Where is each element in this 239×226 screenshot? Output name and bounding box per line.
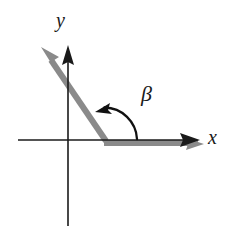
y-axis-arrowhead	[62, 45, 74, 65]
diagram-canvas	[0, 0, 239, 226]
terminal-side-ray	[41, 47, 106, 141]
angle-diagram-figure: y x β	[0, 0, 239, 226]
y-axis	[62, 45, 74, 226]
terminal-side-shaft	[51, 60, 106, 141]
x-axis-label: x	[208, 127, 217, 147]
y-axis-label: y	[56, 10, 65, 30]
angle-label-beta: β	[141, 83, 152, 105]
